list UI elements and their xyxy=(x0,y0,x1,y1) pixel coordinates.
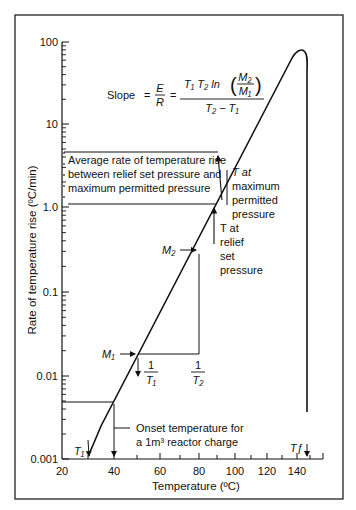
svg-text:(: ( xyxy=(230,74,237,96)
y-tick-label: 1.0 xyxy=(43,201,58,213)
x-axis-ticks xyxy=(88,453,323,459)
y-tick-label: 0.01 xyxy=(37,370,58,382)
slope-formula: Slope = E R = T₁ T₂ ln ( M₂ M₁ ) T₂ − T₁ xyxy=(107,71,264,114)
x-tick-label: 140 xyxy=(288,465,306,477)
t-relief-line-2: relief xyxy=(220,236,245,248)
t-relief-line-1: T at xyxy=(220,222,239,234)
onset-line-2: a 1m³ reactor charge xyxy=(136,436,238,448)
onset-line-1: Onset temperature for xyxy=(136,422,244,434)
y-tick-label: 100 xyxy=(40,36,58,48)
y-tick-label: 0.001 xyxy=(30,453,58,465)
svg-text:=: = xyxy=(144,89,150,101)
svg-text:T₁ T₂ ln: T₁ T₂ ln xyxy=(184,78,220,90)
y-tick-label: 10 xyxy=(46,118,58,130)
x-axis-title: Temperature (ºC) xyxy=(152,480,240,492)
svg-text:T₂ − T₁: T₂ − T₁ xyxy=(205,102,239,114)
x-tick-label: 100 xyxy=(226,465,244,477)
arrhenius-self-heating-chart: 100 10 1.0 0.1 0.01 0.001 20 40 60 80 10… xyxy=(0,0,356,510)
t1-arrow xyxy=(88,440,89,456)
t-max-label: T at maximum permitted pressure xyxy=(232,166,280,220)
t-relief-line-3: set xyxy=(220,250,235,262)
x-tick-label: 40 xyxy=(108,465,120,477)
rate-curve xyxy=(90,50,307,452)
y-axis-ticks xyxy=(62,42,69,459)
average-rate-label: Average rate of temperature rise between… xyxy=(68,154,226,194)
tf-label: Tƒ xyxy=(290,442,303,454)
t-max-line-1: T at xyxy=(232,166,252,178)
svg-text:1: 1 xyxy=(148,359,154,371)
x-tick-label: 20 xyxy=(56,465,68,477)
m1-label: M₁ xyxy=(102,348,115,360)
x-tick-label: 80 xyxy=(193,465,205,477)
x-tick-labels: 20 40 60 80 100 120 140 xyxy=(56,465,306,477)
svg-text:E: E xyxy=(156,82,164,94)
m2-label: M₂ xyxy=(162,244,176,256)
t-max-line-3: permitted xyxy=(232,194,278,206)
y-tick-label: 0.1 xyxy=(43,286,58,298)
onset-label: Onset temperature for a 1m³ reactor char… xyxy=(136,422,244,448)
average-rate-line-3: maximum permitted pressure xyxy=(68,182,210,194)
t-max-line-2: maximum xyxy=(232,180,280,192)
svg-text:T₂: T₂ xyxy=(193,374,205,386)
svg-text:1: 1 xyxy=(195,359,201,371)
svg-text:T₁: T₁ xyxy=(146,374,157,386)
svg-text:): ) xyxy=(255,74,262,96)
inv-t1-fraction: 1 T₁ xyxy=(144,359,158,386)
t-max-line-4: pressure xyxy=(232,208,275,220)
y-axis-title: Rate of temperature rise (ºC/min) xyxy=(26,165,38,334)
svg-text:=: = xyxy=(170,89,176,101)
inv-t2-fraction: 1 T₂ xyxy=(191,359,205,386)
x-tick-label: 120 xyxy=(258,465,276,477)
average-rate-line-2: between relief set pressure and xyxy=(68,168,221,180)
svg-text:R: R xyxy=(156,96,164,108)
t-relief-label: T at relief set pressure xyxy=(220,222,263,276)
slope-label: Slope xyxy=(107,89,135,101)
t-relief-line-4: pressure xyxy=(220,264,263,276)
svg-text:M₁: M₁ xyxy=(239,85,252,97)
x-tick-label: 60 xyxy=(154,465,166,477)
svg-text:M₂: M₂ xyxy=(238,71,252,83)
svg-text:T at: T at xyxy=(232,166,252,178)
t1-label: T₁ xyxy=(74,445,85,457)
average-rate-line-1: Average rate of temperature rise xyxy=(68,154,226,166)
